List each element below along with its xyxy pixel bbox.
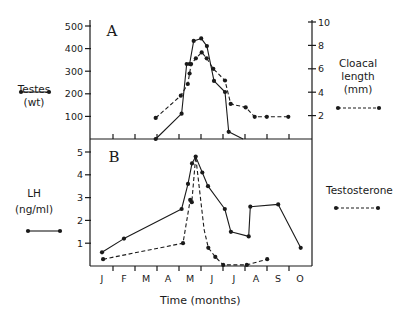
testes-series-point — [205, 44, 209, 48]
lh-series-point — [200, 170, 204, 174]
lh-series-point — [229, 230, 233, 234]
cloacal-series-point — [194, 56, 198, 60]
testosterone-series-point — [190, 200, 194, 204]
testosterone-series-point — [213, 255, 217, 259]
testes-legend-label: Testes (wt) — [12, 83, 56, 109]
series-layer — [100, 36, 303, 267]
testes-series-point — [154, 137, 158, 141]
y-tick-label-lh: 3 — [77, 192, 83, 203]
axes: 10020030040050024681012345JFMAMJJASOAB — [65, 17, 330, 285]
testes-series-point — [199, 36, 203, 40]
testes-series-point — [223, 90, 227, 94]
y-tick-label-lh: 5 — [77, 147, 83, 158]
x-tick-label-month: A — [253, 273, 260, 284]
x-tick-label-month: J — [210, 273, 214, 284]
testes-series-line — [156, 38, 243, 139]
x-tick-label-month: S — [275, 273, 281, 284]
cloacal-legend-sample-dot — [377, 106, 381, 110]
testosterone-series-point — [221, 263, 225, 267]
lh-series-point — [247, 234, 251, 238]
cloacal-series-point — [286, 115, 290, 119]
testes-series-point — [227, 130, 231, 134]
lh-series-point — [299, 246, 303, 250]
cloacal-series-point — [200, 50, 204, 54]
x-tick-label-month: J — [232, 273, 236, 284]
y-tick-label-lh: 2 — [77, 215, 83, 226]
y-tick-label-testes: 100 — [65, 111, 83, 122]
x-tick-label-month: A — [165, 273, 172, 284]
cloacal-legend-label: Cloacal length (mm) — [336, 57, 380, 96]
cloacal-label-2: length — [336, 70, 380, 83]
lh-series-point — [223, 207, 227, 211]
cloacal-series-point — [188, 71, 192, 75]
cloacal-series-point — [154, 116, 158, 120]
lh-series-point — [180, 207, 184, 211]
y-tick-label-cloacal: 2 — [318, 110, 324, 121]
cloacal-label: Cloacal — [336, 57, 380, 70]
lh-series-point — [206, 184, 210, 188]
lh-label: LH — [14, 187, 54, 200]
cloacal-series-point — [253, 115, 257, 119]
cloacal-series-point — [179, 94, 183, 98]
testosterone-series-point — [206, 246, 210, 250]
x-tick-label-month: M — [142, 273, 150, 284]
testosterone-legend-label: Testosterone — [326, 184, 390, 197]
x-tick-label-month: F — [121, 273, 126, 284]
x-tick-label-month: J — [100, 273, 104, 284]
cloacal-series-point — [223, 78, 227, 82]
cloacal-series-point — [265, 115, 269, 119]
testes-series-point — [212, 79, 216, 83]
cloacal-series-point — [186, 82, 190, 86]
y-tick-label-testes: 200 — [65, 88, 83, 99]
cloacal-unit: (mm) — [336, 83, 380, 96]
y-tick-label-lh: 4 — [77, 169, 83, 180]
testosterone-series-line — [103, 157, 267, 265]
cloacal-series-line — [156, 52, 289, 118]
y-tick-label-testes: 300 — [65, 66, 83, 77]
lh-legend-sample-dot — [26, 229, 30, 233]
cloacal-series-point — [211, 67, 215, 71]
cloacal-legend-sample-dot — [336, 106, 340, 110]
figure-canvas: 10020030040050024681012345JFMAMJJASOAB — [0, 0, 405, 320]
y-tick-label-testes: 400 — [65, 43, 83, 54]
y-tick-label-cloacal: 10 — [318, 17, 330, 28]
testosterone-series-point — [101, 257, 105, 261]
y-tick-label-cloacal: 4 — [318, 87, 324, 98]
cloacal-series-point — [244, 105, 248, 109]
panel-a-label: A — [106, 22, 118, 40]
lh-legend-label: LH (ng/ml) — [14, 187, 54, 216]
y-tick-label-lh: 1 — [77, 238, 83, 249]
y-tick-label-cloacal: 6 — [318, 63, 324, 74]
x-tick-label-month: O — [296, 273, 303, 284]
lh-series-point — [122, 237, 126, 241]
lh-series-point — [186, 182, 190, 186]
testes-unit: (wt) — [12, 96, 56, 109]
y-tick-label-testes: 500 — [65, 21, 83, 32]
testosterone-legend-sample-dot — [334, 206, 338, 210]
testes-label: Testes — [12, 83, 56, 96]
y-tick-label-cloacal: 8 — [318, 40, 324, 51]
panel-b-label: B — [108, 148, 119, 166]
x-axis-title: Time (months) — [160, 294, 240, 307]
lh-series-point — [190, 161, 194, 165]
testosterone-legend-sample-dot — [376, 206, 380, 210]
cloacal-series-point — [205, 56, 209, 60]
lh-series-point — [276, 202, 280, 206]
cloacal-series-point — [189, 62, 193, 66]
testes-series-point — [180, 112, 184, 116]
x-tick-label-month: M — [186, 273, 194, 284]
testes-series-point — [192, 39, 196, 43]
lh-series-point — [248, 205, 252, 209]
testosterone-series-point — [265, 257, 269, 261]
lh-unit: (ng/ml) — [14, 203, 54, 216]
lh-series-point — [100, 250, 104, 254]
testosterone-series-point — [245, 263, 249, 267]
cloacal-series-point — [229, 102, 233, 106]
lh-legend-sample-dot — [58, 229, 62, 233]
testosterone-series-point — [181, 241, 185, 245]
